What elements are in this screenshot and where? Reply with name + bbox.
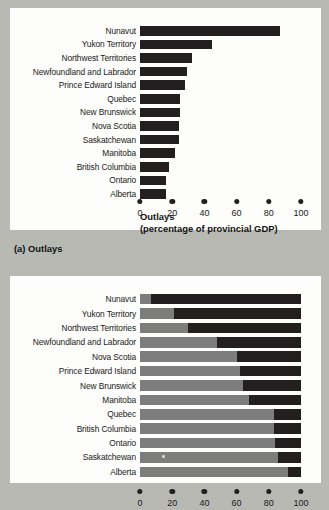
bar-track [140,395,301,406]
bar-row-label: Northwest Territories [10,53,140,63]
bar-track [140,121,301,131]
bar-segment-federal-transfers [275,438,301,449]
bar-segment-own-source [140,308,174,319]
bar-track [140,53,301,63]
bar-row-label: Prince Edward Island [10,80,140,90]
x-axis-title-line1: Outlays [140,211,329,223]
bar-row: New Brunswick [10,106,321,120]
bar-row-label: Nova Scotia [10,121,140,131]
bar-row-label: Newfoundland and Labrador [10,337,140,347]
bar-row-label: Yukon Territory [10,39,140,49]
chart-panel-revenue-sources: NunavutYukon TerritoryNorthwest Territor… [10,276,321,483]
bar-track [140,323,301,334]
bar-rows-revenue-sources: NunavutYukon TerritoryNorthwest Territor… [10,292,321,479]
bar-segment-federal-transfers [274,409,301,420]
bar-row: Prince Edward Island [10,78,321,92]
bar-row-label: New Brunswick [10,381,140,391]
bar-row: Quebec [10,407,321,421]
bar-segment-own-source [140,409,274,420]
bar-segment-federal-transfers [274,423,301,434]
bar-row: Manitoba [10,146,321,160]
bar-row-label: Alberta [10,189,140,199]
x-axis-tick-dot [266,199,271,204]
bar-segment-own-source [140,294,151,305]
bar [140,94,180,104]
bar-row: Saskatchewan [10,450,321,464]
bar [140,148,175,158]
bar-segment-own-source [140,351,237,362]
bar-segment-federal-transfers [278,452,301,463]
bar-track [140,189,301,199]
bar-row-label: Northwest Territories [10,323,140,333]
bar-row-label: British Columbia [10,424,140,434]
x-axis-tick-dot [266,489,271,494]
bar-track [140,423,301,434]
bar-row: Ontario [10,436,321,450]
x-axis-tick-dot [202,489,207,494]
bar-row: Manitoba [10,393,321,407]
bar-row-label: Quebec [10,409,140,419]
bar-segment-federal-transfers [188,323,301,334]
bar-row: Nova Scotia [10,350,321,364]
bar-track [140,148,301,158]
bar [140,26,280,36]
bar-track [140,351,301,362]
bar-row-label: British Columbia [10,162,140,172]
bar-segment-federal-transfers [240,366,301,377]
bar [140,67,187,77]
bar-segment-own-source [140,380,243,391]
x-axis-tick-dot [169,199,174,204]
bar-row: Yukon Territory [10,306,321,320]
bar-track [140,366,301,377]
x-axis-tick-dot [298,199,303,204]
x-axis-tick-label: 40 [199,498,209,508]
bar-segment-federal-transfers [249,395,301,406]
bar-row: Prince Edward Island [10,364,321,378]
bar-track [140,409,301,420]
bar-row-label: Nunavut [10,26,140,36]
bar-row-label: Saskatchewan [10,452,140,462]
bar-segment-federal-transfers [288,467,301,478]
bar-segment-own-source [140,395,249,406]
bar [140,162,169,172]
bar-row-label: Ontario [10,438,140,448]
bar-track [140,108,301,118]
bar-row: Nova Scotia [10,119,321,133]
bar-segment-federal-transfers [151,294,301,305]
bar-segment-federal-transfers [217,337,301,348]
bar-track [140,162,301,172]
bar-row-label: Saskatchewan [10,135,140,145]
bar-row-label: New Brunswick [10,107,140,117]
bar-track [140,135,301,145]
x-axis-title-line2: (percentage of provincial GDP) [140,223,329,235]
bar [140,40,212,50]
bar-row: Alberta [10,465,321,479]
bar-track [140,467,301,478]
x-axis-tick-marks [140,199,301,208]
bar [140,135,179,145]
bar-row: Ontario [10,174,321,188]
bar-row: Newfoundland and Labrador [10,335,321,349]
bar-track [140,308,301,319]
bar [140,176,166,186]
x-axis-tick-dot [298,489,303,494]
x-axis-tick-labels: 020406080100 [140,498,301,510]
bar-row-label: Quebec [10,94,140,104]
bar-segment-own-source [140,423,274,434]
x-axis-tick-dot [234,199,239,204]
bar-track [140,452,301,463]
bar-row: British Columbia [10,422,321,436]
bar-row-label: Prince Edward Island [10,366,140,376]
x-axis-tick-dot [137,199,142,204]
bar-row: Quebec [10,92,321,106]
bar-rows-outlays: NunavutYukon TerritoryNorthwest Territor… [10,24,321,201]
bar-segment-own-source [140,467,288,478]
bar-row: New Brunswick [10,378,321,392]
bar-track [140,67,301,77]
bar-segment-own-source [140,323,188,334]
bar-row-label: Nova Scotia [10,352,140,362]
bar-row: Saskatchewan [10,133,321,147]
bar-segment-own-source [140,366,240,377]
bar-segment-own-source [140,337,217,348]
